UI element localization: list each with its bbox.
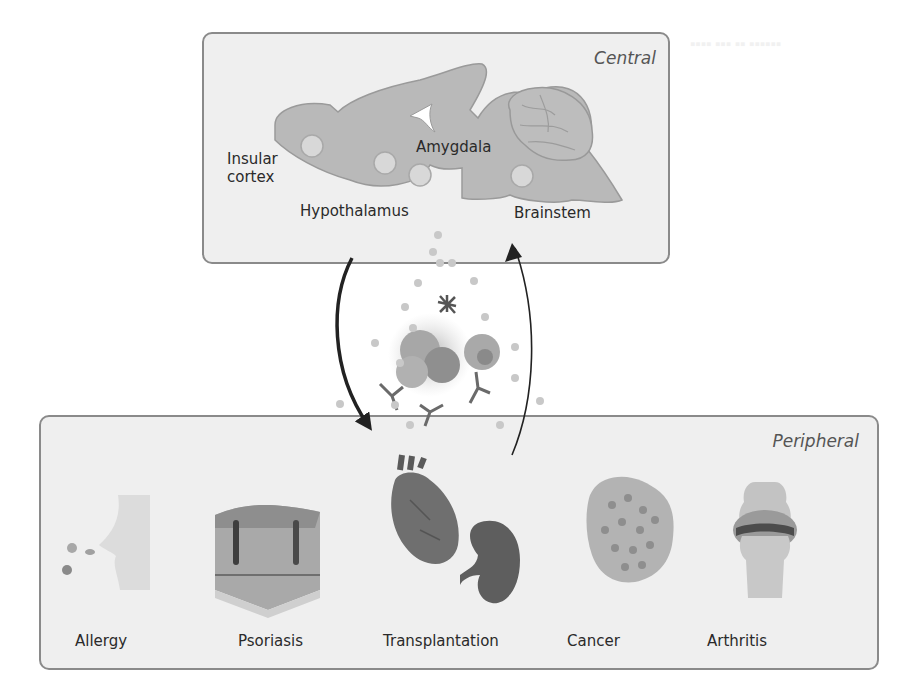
diagram-graphics [0, 0, 915, 697]
label-allergy: Allergy [75, 632, 127, 650]
label-transplantation: Transplantation [383, 632, 499, 650]
psoriasis-skin-icon [215, 505, 320, 618]
brain-icon [275, 64, 622, 202]
transplant-heart-icon [391, 455, 459, 564]
label-brainstem: Brainstem [514, 204, 591, 222]
immune-cells-icon [336, 231, 544, 429]
allergy-nose-icon [62, 495, 150, 590]
label-amygdala: Amygdala [416, 138, 491, 156]
label-hypothalamus: Hypothalamus [300, 202, 409, 220]
cytokine-icon [438, 295, 456, 313]
arrow-down-icon [337, 258, 368, 425]
label-psoriasis: Psoriasis [238, 632, 303, 650]
cancer-tumor-icon [586, 477, 673, 583]
arthritis-joint-icon [733, 482, 797, 598]
transplant-kidney-icon [460, 521, 520, 603]
label-cancer: Cancer [567, 632, 620, 650]
label-insular-cortex: Insular cortex [227, 150, 278, 186]
label-arthritis: Arthritis [707, 632, 767, 650]
arrow-up-icon [512, 248, 532, 455]
